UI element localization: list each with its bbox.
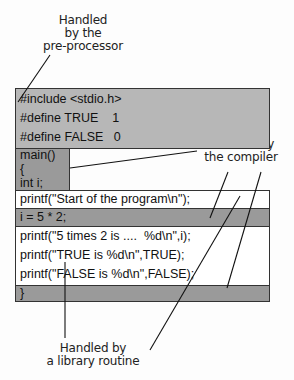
leader-lines	[0, 0, 294, 380]
